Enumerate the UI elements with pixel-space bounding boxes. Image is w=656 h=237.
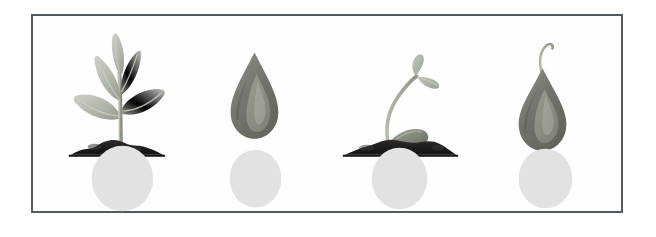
- illustration-frame: [31, 14, 623, 213]
- ground-circle: [372, 148, 428, 210]
- seed-body: [519, 68, 567, 150]
- seed-body: [231, 52, 279, 138]
- ground-circle: [230, 150, 282, 208]
- leaf-lower-left: [74, 94, 119, 119]
- sprouting-seed-art: [327, 16, 474, 215]
- emerging-shoot: [540, 44, 552, 72]
- young-seedling-art: [33, 16, 180, 215]
- leaf-top: [112, 34, 124, 75]
- panel-sprouting-seed: [327, 16, 474, 211]
- leaf-lower-right: [122, 89, 164, 115]
- panel-germinating-seed: [474, 16, 621, 211]
- cotyledons: [412, 54, 439, 88]
- ground-circle: [519, 149, 573, 209]
- panel-young-seedling: [33, 16, 180, 211]
- illustration-canvas: [0, 0, 656, 237]
- dormant-seed-art: [180, 16, 327, 215]
- ground-circle: [92, 146, 154, 212]
- germinating-seed-art: [474, 16, 621, 215]
- stem: [119, 72, 120, 144]
- panel-dormant-seed: [180, 16, 327, 211]
